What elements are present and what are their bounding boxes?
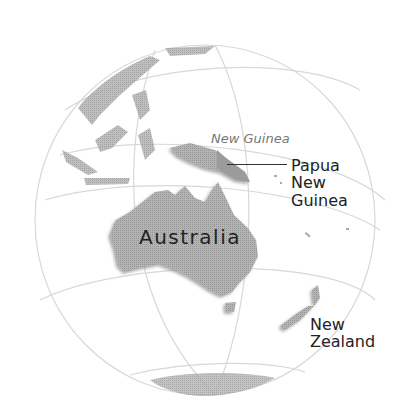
antarctica-land [150, 373, 275, 396]
label-nz-line1: New [310, 316, 375, 333]
label-new-guinea: New Guinea [211, 132, 290, 146]
label-png-line2: New [291, 174, 348, 191]
globe-map [0, 0, 410, 415]
label-papua-new-guinea: Papua New Guinea [291, 157, 348, 209]
label-png-line1: Papua [291, 157, 348, 174]
label-new-zealand: New Zealand [310, 316, 375, 351]
label-png-line3: Guinea [291, 192, 348, 209]
new-guinea-land [170, 143, 250, 182]
label-nz-line2: Zealand [310, 333, 375, 350]
png-pointer-line [227, 164, 287, 165]
label-australia: Australia [139, 227, 241, 249]
